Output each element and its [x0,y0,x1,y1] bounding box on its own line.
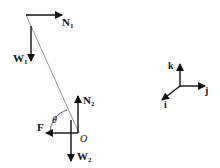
n2-label: N2 [83,94,95,108]
w1-label: W1 [13,52,28,66]
theta-label: θ [52,114,57,125]
origin-label: O [80,133,87,144]
j-axis-label: j [204,85,208,96]
i-axis-arrow [162,86,180,100]
friction-label: F [37,121,44,133]
w2-label: W2 [77,150,92,164]
i-axis-label: i [164,99,167,110]
free-body-diagram: N1 W1 N2 W2 F θ O k j i [0,0,220,168]
n1-label: N1 [62,16,74,30]
k-axis-label: k [168,60,174,71]
